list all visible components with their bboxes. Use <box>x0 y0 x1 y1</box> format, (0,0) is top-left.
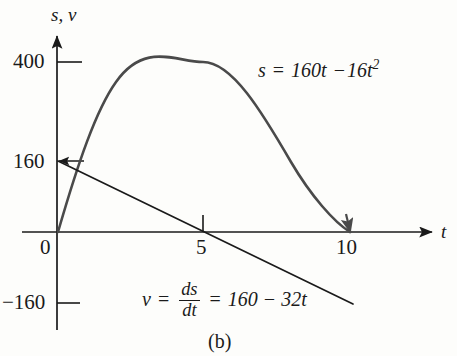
position-equation-equals: = <box>271 59 286 81</box>
position-equation-annotation: s = 160t −16t2 <box>258 58 379 80</box>
position-curve <box>58 57 350 232</box>
origin-label: 0 <box>40 237 51 258</box>
figure-caption: (b) <box>208 330 231 353</box>
velocity-equation-annotation: v = ds dt = 160 − 32t <box>142 281 307 322</box>
y-tick-label-400: 400 <box>13 51 45 72</box>
position-equation-term2-base: 16t <box>347 59 373 81</box>
velocity-equation-equals-2: = <box>208 288 223 310</box>
position-equation-term2-exponent: 2 <box>372 57 379 72</box>
position-equation-term1: 160t <box>291 59 327 81</box>
x-axis-label: t <box>441 222 446 241</box>
position-equation-lhs: s <box>258 59 266 81</box>
figure-container: 400 160 −160 0 5 10 s, v t s = 160t −16t… <box>0 0 457 356</box>
velocity-equation-rhs: 160 − 32t <box>228 288 307 310</box>
velocity-equation-equals-1: = <box>156 288 171 310</box>
position-equation-minus: − <box>332 59 347 81</box>
derivative-denominator: dt <box>179 300 199 321</box>
derivative-numerator: ds <box>179 280 199 300</box>
derivative-fraction: ds dt <box>179 280 199 321</box>
y-axis-label: s, v <box>51 5 76 24</box>
velocity-equation-lhs: v <box>142 288 151 310</box>
y-tick-label-neg160: −160 <box>2 292 45 313</box>
x-tick-label-10: 10 <box>336 237 357 258</box>
x-tick-label-5: 5 <box>196 237 207 258</box>
y-tick-label-160: 160 <box>13 151 45 172</box>
